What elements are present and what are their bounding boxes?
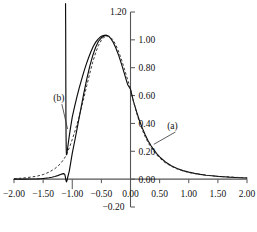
y-axis-ticks xyxy=(131,12,136,207)
x-tick-label: −0.50 xyxy=(90,189,112,199)
y-tick-label: 0.40 xyxy=(139,119,156,129)
x-tick-label: 0.00 xyxy=(122,189,139,199)
y-tick-label: −0.20 xyxy=(103,202,125,212)
y-tick-label: 1.00 xyxy=(139,35,156,45)
chart-figure: −2.00−1.50−1.00−0.500.000.501.001.502.00… xyxy=(0,0,257,232)
y-tick-label: 0.00 xyxy=(139,175,156,185)
y-tick-label: 0.20 xyxy=(139,147,156,157)
x-tick-label: −1.00 xyxy=(61,189,83,199)
chart-canvas: −2.00−1.50−1.00−0.500.000.501.001.502.00… xyxy=(0,0,257,232)
x-tick-label: −1.50 xyxy=(32,189,54,199)
curve-label-b: (b) xyxy=(53,93,64,104)
x-tick-label: 2.00 xyxy=(239,189,256,199)
x-axis-tick-labels: −2.00−1.50−1.00−0.500.000.501.001.502.00 xyxy=(3,189,256,199)
curve-solid-2 xyxy=(66,4,67,155)
x-tick-label: 1.00 xyxy=(180,189,197,199)
y-tick-label: 0.80 xyxy=(139,63,156,73)
x-tick-label: −2.00 xyxy=(3,189,25,199)
y-tick-label: 1.20 xyxy=(110,7,127,17)
annotation-leader-line xyxy=(62,104,68,129)
x-axis-ticks xyxy=(14,179,247,189)
x-tick-label: 0.50 xyxy=(151,189,168,199)
curve-solid-3 xyxy=(67,35,107,153)
x-tick-label: 1.50 xyxy=(210,189,227,199)
curve-label-a: (a) xyxy=(167,121,178,132)
y-tick-label: 0.60 xyxy=(139,91,156,101)
annotation-leader-line xyxy=(154,132,176,144)
